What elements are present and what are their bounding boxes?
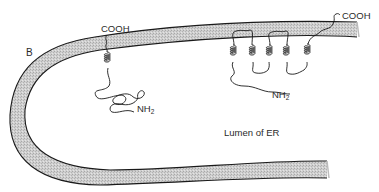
panel-label: B bbox=[26, 48, 33, 58]
transmembrane-helix bbox=[304, 44, 310, 54]
single-pass-nh2-label: NH2 bbox=[137, 104, 154, 116]
multi-pass-cooh-label: COOH bbox=[342, 11, 371, 21]
lumen-of-er-label: Lumen of ER bbox=[224, 128, 279, 138]
er-membrane-diagram bbox=[0, 0, 379, 192]
transmembrane-helix bbox=[266, 45, 272, 55]
transmembrane-helix bbox=[104, 52, 110, 62]
transmembrane-helix bbox=[249, 45, 255, 55]
multi-pass-nh2-label: NH2 bbox=[272, 90, 289, 102]
transmembrane-helix bbox=[230, 45, 236, 55]
transmembrane-helix bbox=[283, 45, 289, 55]
single-pass-cooh-label: COOH bbox=[101, 24, 130, 34]
